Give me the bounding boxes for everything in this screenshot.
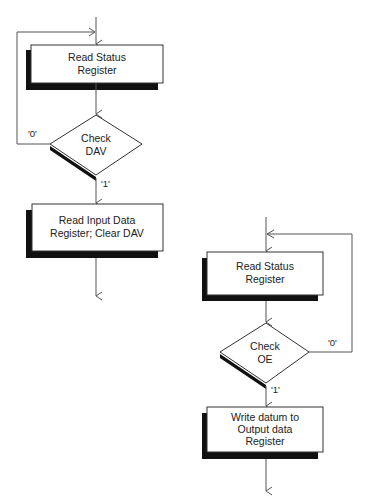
node-label-line: Check [81,132,112,144]
edge-label-oe-0: '0' [328,337,337,348]
node-label-line: DAV [86,145,107,157]
decision-check-dav: Check DAV [50,115,142,181]
edge-label-dav-0: '0' [28,128,37,139]
flowchart-canvas: '0' Read Status Register Check DAV '1' R… [0,0,370,500]
node-label-line: Read Status [68,51,126,63]
node-label-line: Register [77,64,117,76]
decision-check-oe: Check OE [220,323,309,389]
process-read-status-1: Read Status Register [26,45,163,90]
node-label-line: Register; Clear DAV [50,227,144,239]
node-label-line: Output data [238,423,293,435]
process-read-status-2: Read Status Register [202,252,323,301]
process-write-output: Write datum to Output data Register [202,407,323,459]
node-label-line: Write datum to [231,411,299,423]
node-label-line: Register [245,435,285,447]
node-label-line: Read Input Data [59,214,136,226]
process-read-input: Read Input Data Register; Clear DAV [26,204,163,258]
edge-label-oe-1: '1' [271,384,280,395]
edge-label-dav-1: '1' [101,178,110,189]
node-label-line: OE [257,353,272,365]
node-label-line: Read Status [236,260,294,272]
right-flowchart: '0' Read Status Register Check OE '1' Wr… [202,217,352,491]
node-label-line: Register [245,273,285,285]
left-flowchart: '0' Read Status Register Check DAV '1' R… [17,17,163,296]
node-label-line: Check [250,340,281,352]
